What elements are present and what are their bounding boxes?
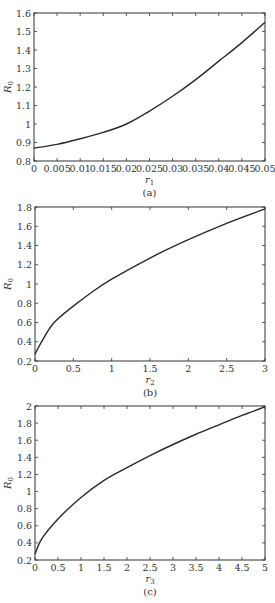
panel-caption: (c)	[143, 586, 157, 597]
x-tick-label: 0.5	[50, 562, 65, 573]
x-tick-label: 0.045	[228, 163, 255, 174]
chart-panel-b: 00.511.522.530.20.40.60.811.21.41.61.8r2…	[2, 202, 268, 399]
y-tick-label: 0.6	[17, 520, 32, 531]
r0-curve	[35, 407, 265, 554]
y-tick-label: 1	[26, 486, 32, 497]
plot-frame	[35, 207, 265, 361]
y-tick-label: 1.8	[17, 418, 32, 429]
y-tick-label: 0.8	[17, 298, 32, 309]
r0-curve	[35, 209, 265, 354]
panel-caption: (b)	[143, 387, 157, 398]
r0-curve	[34, 22, 265, 148]
y-tick-label: 1.2	[16, 82, 31, 93]
y-tick-label: 1.1	[16, 100, 31, 111]
x-tick-label: 0	[32, 562, 38, 573]
panel-caption: (a)	[143, 187, 157, 198]
y-tick-label: 0.8	[17, 503, 32, 514]
y-tick-label: 0.2	[17, 555, 32, 566]
x-tick-label: 2	[185, 363, 191, 374]
x-tick-label: 3	[170, 562, 176, 573]
y-tick-label: 0.4	[17, 537, 32, 548]
y-tick-label: 1.4	[17, 240, 32, 251]
x-tick-label: 0.035	[182, 163, 209, 174]
figure: 00.0050.010.0150.020.0250.030.0350.040.0…	[0, 0, 275, 603]
x-tick-label: 1	[78, 562, 84, 573]
chart-panel-a: 00.0050.010.0150.020.0250.030.0350.040.0…	[2, 8, 275, 199]
x-tick-label: 5	[262, 562, 268, 573]
x-tick-label: 4.5	[234, 562, 249, 573]
x-axis-label: r1	[145, 174, 154, 187]
y-tick-label: 1.4	[16, 45, 31, 56]
x-tick-label: 1	[109, 363, 115, 374]
chart-panel-c: 00.511.522.533.544.550.20.40.60.811.21.4…	[2, 401, 268, 598]
plot-frame	[34, 13, 265, 161]
x-tick-label: 0.025	[136, 163, 163, 174]
plot-frame	[35, 406, 265, 560]
y-tick-label: 1	[26, 279, 32, 290]
x-tick-label: 0	[31, 163, 37, 174]
y-axis-label: R0	[2, 81, 15, 94]
y-axis-label: R0	[2, 477, 15, 490]
x-tick-label: 0.05	[254, 163, 275, 174]
y-tick-label: 1.3	[16, 63, 31, 74]
x-tick-label: 0.02	[116, 163, 137, 174]
y-tick-label: 1.2	[17, 469, 32, 480]
y-tick-label: 1.6	[16, 8, 31, 19]
x-axis-label: r2	[145, 374, 154, 387]
x-tick-label: 0.005	[43, 163, 70, 174]
y-axis-label: R0	[2, 278, 15, 291]
y-tick-label: 1.8	[17, 202, 32, 213]
x-tick-label: 0.04	[208, 163, 229, 174]
x-tick-label: 2.5	[142, 562, 157, 573]
x-tick-label: 4	[216, 562, 222, 573]
y-tick-label: 0.2	[17, 356, 32, 367]
y-tick-label: 0.4	[17, 336, 32, 347]
y-tick-label: 1.6	[17, 435, 32, 446]
x-axis-label: r3	[145, 573, 154, 586]
x-tick-label: 0.03	[162, 163, 183, 174]
x-tick-label: 3.5	[188, 562, 203, 573]
x-tick-label: 1.5	[96, 562, 111, 573]
x-tick-label: 0.5	[66, 363, 81, 374]
y-tick-label: 2	[26, 401, 32, 412]
y-tick-label: 0.8	[16, 156, 31, 167]
x-tick-label: 0.01	[70, 163, 91, 174]
y-tick-label: 1.6	[17, 221, 32, 232]
y-tick-label: 1	[25, 119, 31, 130]
x-tick-label: 1.5	[142, 363, 157, 374]
y-tick-label: 1.4	[17, 452, 32, 463]
x-tick-label: 0	[32, 363, 38, 374]
y-tick-label: 0.6	[17, 317, 32, 328]
y-tick-label: 0.9	[16, 137, 31, 148]
y-tick-label: 1.2	[17, 259, 32, 270]
y-tick-label: 1.5	[16, 26, 31, 37]
x-tick-label: 3	[262, 363, 268, 374]
x-tick-label: 2	[124, 562, 130, 573]
x-tick-label: 2.5	[219, 363, 234, 374]
x-tick-label: 0.015	[90, 163, 117, 174]
